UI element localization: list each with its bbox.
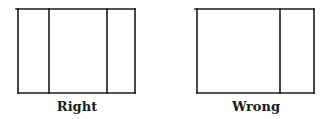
right-layout-diagram — [16, 9, 135, 93]
wrong-label: Wrong — [232, 99, 280, 114]
wrong-layout-diagram — [195, 9, 314, 93]
diagram-canvas — [0, 0, 330, 119]
right-label: Right — [57, 99, 97, 114]
